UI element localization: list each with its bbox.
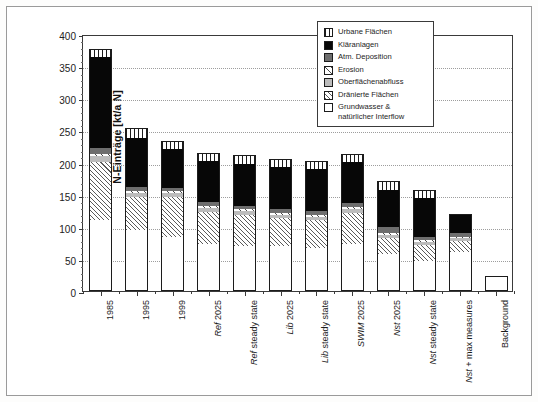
y-minor-tick xyxy=(81,42,84,43)
bar-segment xyxy=(413,245,436,262)
x-axis-label: Ref steady state xyxy=(249,300,259,365)
y-tick-mark xyxy=(79,36,83,37)
y-tick-label: 250 xyxy=(59,127,76,138)
legend-item[interactable]: Erosion xyxy=(324,65,428,75)
bar-segment xyxy=(125,230,148,291)
x-axis-label: Lib 2025 xyxy=(285,300,295,335)
legend-item[interactable]: Oberflächenabfluss xyxy=(324,77,428,87)
gridline xyxy=(83,100,512,101)
gridline xyxy=(83,68,512,69)
y-axis-title: N-Einträge [kt/a N] xyxy=(111,57,123,217)
bar-segment xyxy=(377,238,400,253)
x-tick-mark xyxy=(173,291,174,296)
legend-item[interactable]: Atm. Deposition xyxy=(324,52,428,62)
bar-segment xyxy=(269,159,292,167)
legend-item[interactable]: Dränierte Flächen xyxy=(324,90,428,100)
bar-segment xyxy=(377,227,400,233)
bar-lib-2025[interactable] xyxy=(269,159,292,291)
x-boundary-tick xyxy=(442,291,443,294)
x-boundary-tick xyxy=(514,291,515,294)
figure-canvas: N-Einträge [kt/a N] 05010015020025030035… xyxy=(0,0,538,402)
bar-segment xyxy=(341,162,364,203)
bar-segment xyxy=(341,207,364,209)
y-minor-tick xyxy=(81,120,84,121)
bar-segment xyxy=(233,215,256,246)
x-boundary-tick xyxy=(478,291,479,294)
plot-area: N-Einträge [kt/a N] 05010015020025030035… xyxy=(82,35,513,292)
bar-swim-2025[interactable] xyxy=(341,154,364,291)
x-axis-label: Ref 2025 xyxy=(213,300,223,337)
x-boundary-tick xyxy=(155,291,156,294)
y-minor-tick xyxy=(81,235,84,236)
bar-1995[interactable] xyxy=(125,128,148,291)
y-minor-tick xyxy=(81,87,84,88)
bar-segment xyxy=(89,49,112,57)
y-tick-label: 150 xyxy=(59,191,76,202)
bar-segment xyxy=(89,220,112,291)
vertical-stripes-swatch xyxy=(324,28,333,37)
x-tick-mark xyxy=(316,291,317,296)
bar-segment xyxy=(341,209,364,213)
bar-segment xyxy=(161,141,184,149)
x-axis-label: Nst + max measures xyxy=(464,300,474,383)
bar-segment xyxy=(413,242,436,245)
y-minor-tick xyxy=(81,107,84,108)
bar-segment xyxy=(233,164,256,206)
y-minor-tick xyxy=(81,152,84,153)
bar-ref-2025[interactable] xyxy=(197,153,220,291)
bar-segment xyxy=(197,161,220,202)
bar-nst-2025[interactable] xyxy=(377,181,400,292)
bar-segment xyxy=(413,237,436,240)
legend-item-label: Atm. Deposition xyxy=(338,52,392,62)
bar-background[interactable] xyxy=(485,276,508,291)
bar-segment xyxy=(269,167,292,209)
bar-segment xyxy=(377,181,400,190)
y-minor-tick xyxy=(81,113,84,114)
bar-lib-steady-state[interactable] xyxy=(305,161,328,291)
bar-segment xyxy=(161,193,184,196)
y-minor-tick xyxy=(81,222,84,223)
bar-segment xyxy=(485,276,508,277)
y-minor-tick xyxy=(81,242,84,243)
bar-segment xyxy=(341,203,364,207)
y-tick-mark xyxy=(79,132,83,133)
legend-item[interactable]: Kläranlagen xyxy=(324,40,428,50)
x-axis-label: SWIM 2025 xyxy=(356,300,366,347)
bar-nst-steady-state[interactable] xyxy=(413,190,436,292)
bar-ref-steady-state[interactable] xyxy=(233,155,256,291)
bar-1985[interactable] xyxy=(89,49,112,291)
bar-segment xyxy=(233,206,256,210)
legend-item[interactable]: Urbane Flächen xyxy=(324,27,428,37)
x-axis-label: Background xyxy=(500,300,510,348)
legend-item-label: Urbane Flächen xyxy=(338,27,392,37)
x-tick-mark xyxy=(460,291,461,296)
bar-segment xyxy=(377,233,400,235)
bar-segment xyxy=(197,212,220,244)
bar-segment xyxy=(413,261,436,291)
x-tick-mark xyxy=(352,291,353,296)
bar-segment xyxy=(305,248,328,291)
y-minor-tick xyxy=(81,49,84,50)
x-boundary-tick xyxy=(370,291,371,294)
bar-segment xyxy=(269,209,292,213)
legend-item[interactable]: Grundwasser & natürlicher Interflow xyxy=(324,102,428,121)
x-boundary-tick xyxy=(299,291,300,294)
y-tick-label: 100 xyxy=(59,223,76,234)
y-minor-tick xyxy=(81,274,84,275)
x-boundary-tick xyxy=(83,291,84,294)
y-minor-tick xyxy=(81,248,84,249)
bar-segment xyxy=(161,197,184,237)
y-tick-mark xyxy=(79,100,83,101)
bar-segment xyxy=(197,153,220,161)
bar-segment xyxy=(89,162,112,220)
x-tick-mark xyxy=(209,291,210,296)
bar-segment xyxy=(305,215,328,217)
bar-segment xyxy=(89,148,112,153)
bar-segment xyxy=(233,246,256,291)
legend-item-label: Dränierte Flächen xyxy=(338,90,398,100)
bar-segment xyxy=(125,138,148,187)
bar-nst-max-measures[interactable] xyxy=(449,214,472,291)
bar-segment xyxy=(305,220,328,248)
bar-segment xyxy=(485,277,508,291)
bar-1999[interactable] xyxy=(161,141,184,291)
